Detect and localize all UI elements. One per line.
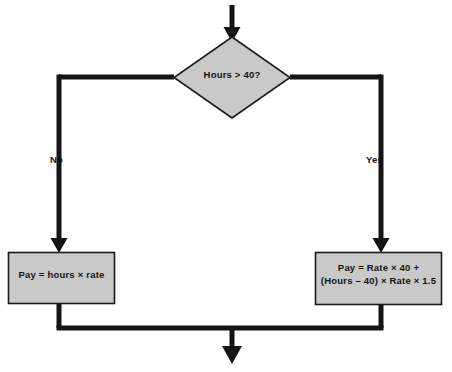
flowchart-graphics bbox=[0, 0, 452, 372]
flowchart-canvas: Hours > 40? Pay = hours × rate Pay = Rat… bbox=[0, 0, 452, 372]
connector-false-path bbox=[51, 75, 175, 254]
decision-node-shape bbox=[174, 37, 290, 118]
process-left-node-shape bbox=[9, 253, 115, 304]
connector-merge bbox=[57, 303, 384, 328]
branch-label-yes: Yes bbox=[366, 154, 383, 165]
process-right-node-shape bbox=[316, 253, 442, 305]
branch-label-no: No bbox=[50, 154, 63, 165]
connector-exit bbox=[222, 328, 242, 364]
